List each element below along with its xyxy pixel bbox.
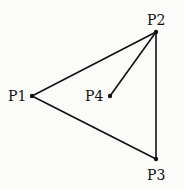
edge-p1-p2 — [32, 32, 156, 96]
point-p4 — [108, 94, 112, 98]
graph-svg: P1P2P3P4 — [0, 0, 184, 190]
label-p3: P3 — [147, 167, 165, 183]
edge-p1-p3 — [32, 96, 156, 159]
point-p2 — [154, 30, 158, 34]
label-p1: P1 — [8, 88, 26, 104]
label-p4: P4 — [85, 88, 103, 104]
edge-p2-p4 — [110, 32, 156, 96]
nodes-group: P1P2P3P4 — [8, 12, 165, 183]
point-p1 — [30, 94, 34, 98]
point-p3 — [154, 157, 158, 161]
label-p2: P2 — [147, 12, 165, 28]
diagram-canvas: P1P2P3P4 — [0, 0, 184, 190]
